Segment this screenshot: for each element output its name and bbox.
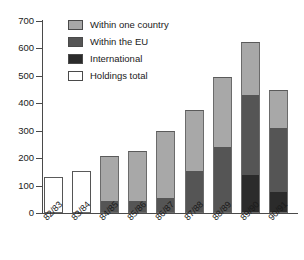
bar-chart: 0100200300400500600700 82/8383/8484/8585… bbox=[0, 0, 304, 260]
legend-swatch bbox=[68, 54, 83, 64]
bar-segment[interactable] bbox=[269, 128, 288, 192]
legend-swatch bbox=[68, 37, 83, 47]
bar-segment[interactable] bbox=[185, 110, 204, 170]
legend-label: Within one country bbox=[90, 20, 169, 30]
legend-label: International bbox=[90, 54, 142, 64]
chart-legend: Within one countryWithin the EUInternati… bbox=[68, 16, 169, 84]
legend-label: Within the EU bbox=[90, 37, 148, 47]
bar-segment[interactable] bbox=[241, 95, 260, 175]
legend-swatch bbox=[68, 71, 83, 81]
legend-item[interactable]: International bbox=[68, 50, 169, 67]
legend-item[interactable]: Within the EU bbox=[68, 33, 169, 50]
legend-item[interactable]: Within one country bbox=[68, 16, 169, 33]
bar-group[interactable] bbox=[241, 42, 260, 213]
bar-segment[interactable] bbox=[241, 42, 260, 95]
bar-segment[interactable] bbox=[269, 90, 288, 128]
legend-swatch bbox=[68, 20, 83, 30]
legend-item[interactable]: Holdings total bbox=[68, 67, 169, 84]
bar-segment[interactable] bbox=[213, 77, 232, 147]
bar-segment[interactable] bbox=[156, 131, 175, 198]
legend-label: Holdings total bbox=[90, 71, 148, 81]
